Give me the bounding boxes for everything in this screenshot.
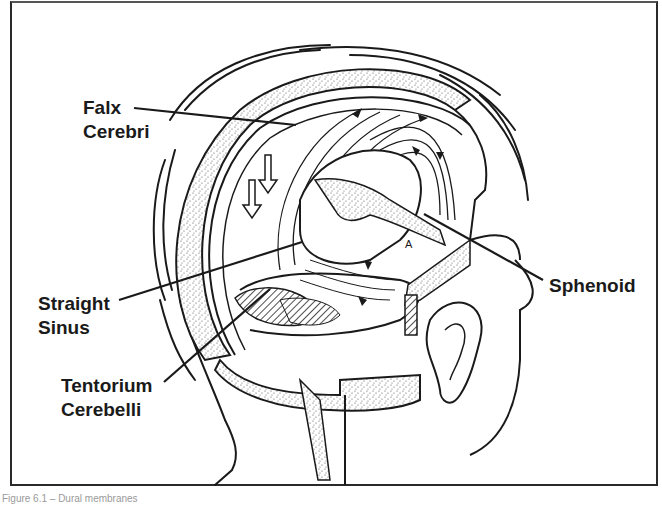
label-sphenoid: Sphenoid	[549, 274, 636, 298]
label-falx-cerebri: Falx Cerebri	[83, 96, 150, 144]
label-straight-sinus: Straight Sinus	[38, 292, 110, 340]
label-tentorium-cerebelli: Tentorium Cerebelli	[61, 374, 152, 422]
marker-a: A	[405, 238, 413, 250]
figure-caption: Figure 6.1 – Dural membranes	[2, 493, 138, 504]
ear	[427, 303, 482, 403]
head-anatomy-illustration: A	[0, 0, 662, 505]
